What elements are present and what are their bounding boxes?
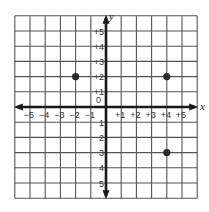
data-point (72, 73, 79, 80)
x-tick-label: −5 (24, 110, 34, 120)
x-tick-label: +3 (145, 110, 155, 120)
x-tick-label: +2 (130, 110, 140, 120)
origin-label: 0 (96, 95, 101, 105)
y-tick-label: 4 (99, 163, 104, 173)
x-tick-label: −4 (39, 110, 49, 120)
y-tick-label: 5 (99, 179, 104, 189)
y-tick-label: +3 (94, 57, 104, 67)
coordinate-plane: −5−4−3−2−1+1+2+3+4+5+5+4+3+2+112345 x y … (0, 0, 209, 212)
y-tick-label: 3 (99, 148, 104, 158)
x-tick-label: −2 (69, 110, 79, 120)
axes (14, 15, 198, 199)
x-tick-label: +5 (176, 110, 186, 120)
x-tick-label: +4 (161, 110, 171, 120)
data-point (163, 73, 170, 80)
x-tick-label: −1 (85, 110, 95, 120)
y-tick-label: 2 (99, 133, 104, 143)
y-axis-label: y (108, 10, 114, 22)
data-point (163, 149, 170, 156)
y-tick-label: +2 (94, 72, 104, 82)
x-tick-label: +1 (115, 110, 125, 120)
x-axis-label: x (199, 100, 205, 112)
x-tick-label: −3 (54, 110, 64, 120)
y-tick-label: 1 (99, 118, 104, 128)
y-tick-label: +4 (94, 42, 104, 52)
y-tick-label: +5 (94, 27, 104, 37)
